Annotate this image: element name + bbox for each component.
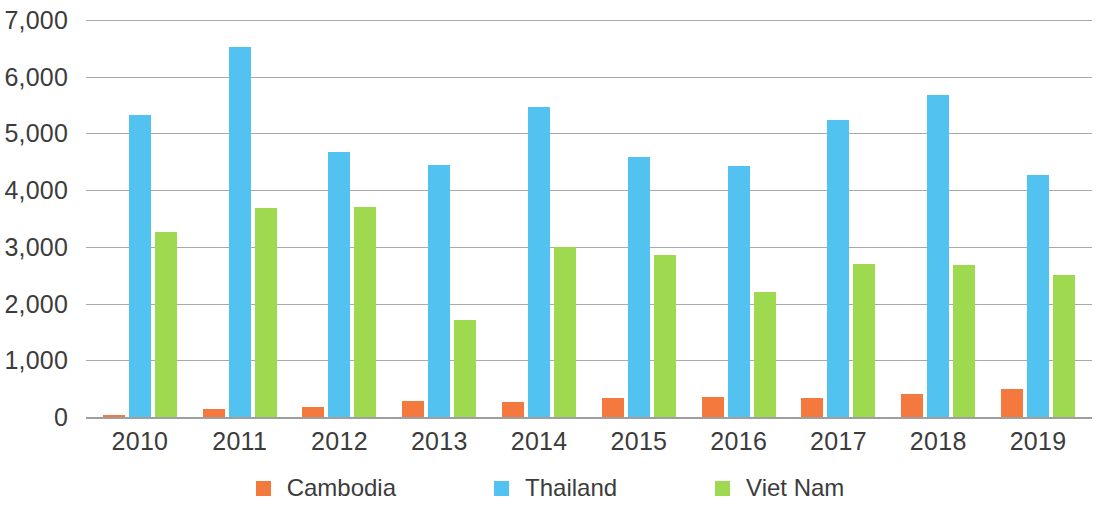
bar-cambodia-2017[interactable] <box>801 398 823 417</box>
bar-viet-nam-2015[interactable] <box>654 255 676 417</box>
bar-viet-nam-2013[interactable] <box>454 320 476 417</box>
y-tick-label: 7,000 <box>4 8 68 33</box>
bar-thailand-2018[interactable] <box>927 95 949 417</box>
y-tick-label: 2,000 <box>4 291 68 316</box>
bar-cambodia-2014[interactable] <box>502 402 524 417</box>
x-tick-label: 2015 <box>589 421 689 461</box>
bar-group <box>90 20 190 417</box>
y-tick-label: 0 <box>54 405 68 430</box>
legend-swatch-icon <box>256 481 271 496</box>
bar-cambodia-2012[interactable] <box>302 407 324 417</box>
legend-item-thailand[interactable]: Thailand <box>494 476 617 500</box>
axis-baseline <box>86 417 1092 419</box>
bar-viet-nam-2018[interactable] <box>953 265 975 417</box>
bar-viet-nam-2011[interactable] <box>255 208 277 417</box>
bar-thailand-2016[interactable] <box>728 166 750 417</box>
bar-cambodia-2013[interactable] <box>402 401 424 417</box>
legend-swatch-icon <box>715 481 730 496</box>
legend-label: Cambodia <box>287 476 396 500</box>
bar-group <box>589 20 689 417</box>
bar-thailand-2017[interactable] <box>827 120 849 417</box>
bar-viet-nam-2016[interactable] <box>754 292 776 417</box>
bar-thailand-2012[interactable] <box>328 152 350 417</box>
x-tick-label: 2012 <box>290 421 390 461</box>
legend-item-cambodia[interactable]: Cambodia <box>256 476 396 500</box>
y-tick-label: 4,000 <box>4 178 68 203</box>
bar-cambodia-2011[interactable] <box>203 409 225 417</box>
x-tick-label: 2018 <box>888 421 988 461</box>
x-tick-label: 2010 <box>90 421 190 461</box>
x-tick-label: 2017 <box>789 421 889 461</box>
bar-viet-nam-2014[interactable] <box>554 247 576 417</box>
legend-swatch-icon <box>494 481 509 496</box>
bars-layer <box>86 20 1092 417</box>
legend-item-viet-nam[interactable]: Viet Nam <box>715 476 844 500</box>
y-tick-label: 6,000 <box>4 64 68 89</box>
bar-group <box>489 20 589 417</box>
chart-legend: CambodiaThailandViet Nam <box>0 470 1100 506</box>
bar-group <box>290 20 390 417</box>
y-tick-label: 5,000 <box>4 121 68 146</box>
bar-thailand-2010[interactable] <box>129 115 151 417</box>
bar-group <box>689 20 789 417</box>
legend-label: Viet Nam <box>746 476 844 500</box>
bar-group <box>888 20 988 417</box>
bar-group <box>789 20 889 417</box>
bar-thailand-2015[interactable] <box>628 157 650 417</box>
y-tick-label: 1,000 <box>4 348 68 373</box>
y-tick-label: 3,000 <box>4 234 68 259</box>
x-tick-label: 2016 <box>689 421 789 461</box>
bar-group <box>190 20 290 417</box>
bar-thailand-2013[interactable] <box>428 165 450 417</box>
bar-group <box>389 20 489 417</box>
bar-thailand-2011[interactable] <box>229 47 251 417</box>
bar-viet-nam-2017[interactable] <box>853 264 875 417</box>
bar-viet-nam-2010[interactable] <box>155 232 177 417</box>
bar-thailand-2019[interactable] <box>1027 175 1049 417</box>
x-tick-label: 2019 <box>988 421 1088 461</box>
bar-cambodia-2018[interactable] <box>901 394 923 417</box>
x-tick-label: 2013 <box>389 421 489 461</box>
x-tick-label: 2011 <box>190 421 290 461</box>
x-tick-label: 2014 <box>489 421 589 461</box>
legend-label: Thailand <box>525 476 617 500</box>
y-axis: 01,0002,0003,0004,0005,0006,0007,000 <box>0 0 78 440</box>
bar-cambodia-2015[interactable] <box>602 398 624 417</box>
bar-viet-nam-2019[interactable] <box>1053 275 1075 417</box>
bar-viet-nam-2012[interactable] <box>354 207 376 417</box>
bar-cambodia-2016[interactable] <box>702 397 724 417</box>
bar-chart: 01,0002,0003,0004,0005,0006,0007,000 201… <box>0 0 1100 506</box>
bar-group <box>988 20 1088 417</box>
bar-thailand-2014[interactable] <box>528 107 550 417</box>
x-axis: 2010201120122013201420152016201720182019 <box>86 421 1092 461</box>
bar-cambodia-2019[interactable] <box>1001 389 1023 417</box>
bar-cambodia-2010[interactable] <box>103 415 125 417</box>
plot-area <box>86 20 1092 417</box>
